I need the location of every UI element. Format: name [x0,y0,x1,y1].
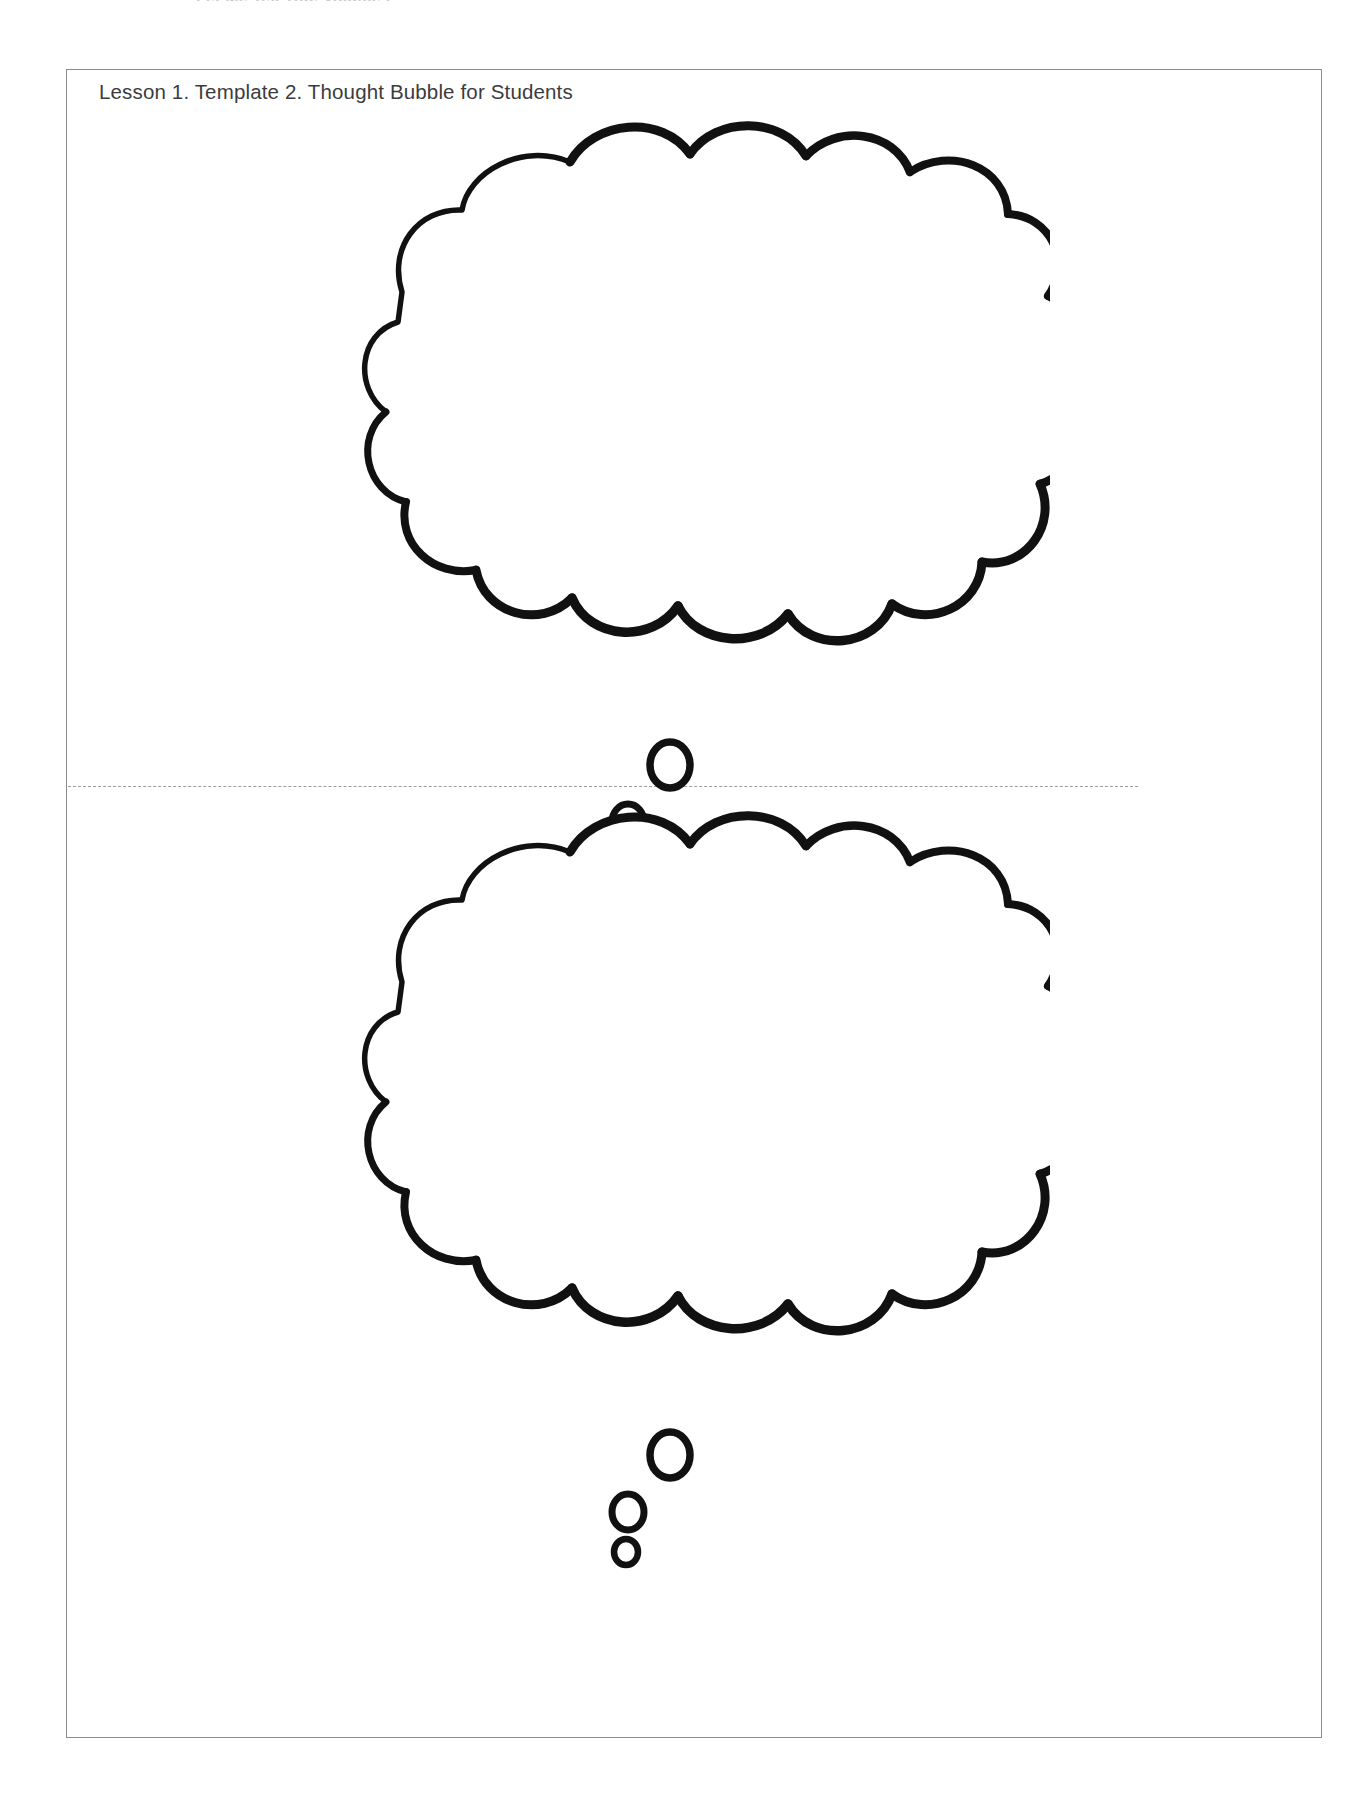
bubble-outline-group [365,126,1050,641]
thought-bubble-top[interactable] [150,100,1050,890]
worksheet-page: Let Me Tell You, Volume 2 Lesson 1. Temp… [0,0,1356,1805]
tail-circle-large [650,742,690,788]
tail-circle-medium [612,1494,644,1530]
cloud-outline-path [365,816,1050,1331]
bubble-outline-group [365,816,1050,1331]
thought-bubble-bottom[interactable] [150,790,1050,1580]
tail-circle-large [650,1432,690,1478]
running-head: Let Me Tell You, Volume 2 [196,0,896,1]
thought-tail-group [612,1432,690,1565]
cloud-outline-path [365,126,1050,641]
tail-circle-small [614,1539,638,1565]
